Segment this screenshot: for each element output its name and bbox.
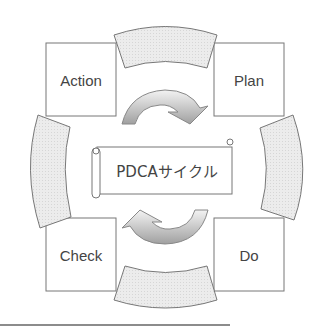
arc-connector-top [114, 27, 217, 69]
stage-label-action: Action [60, 72, 102, 89]
curved-arrow-up-left-icon [122, 210, 208, 244]
stage-box-do: Do [214, 218, 284, 291]
stage-box-check: Check [46, 218, 116, 291]
curved-arrow-down-right-icon [122, 90, 208, 124]
diagram-title: PDCAサイクル [116, 163, 217, 181]
stage-box-action: Action [46, 43, 116, 116]
title-scroll-banner: PDCAサイクル [92, 139, 233, 198]
stage-label-check: Check [60, 247, 103, 264]
stage-label-plan: Plan [234, 72, 264, 89]
arc-connector-right [260, 115, 303, 220]
stage-box-plan: Plan [214, 43, 284, 116]
arc-connector-left [30, 115, 71, 228]
arc-connector-bottom [114, 266, 217, 308]
stage-label-do: Do [239, 247, 258, 264]
pdca-diagram: Action Plan Check Do PDCAサイクル [0, 0, 318, 327]
